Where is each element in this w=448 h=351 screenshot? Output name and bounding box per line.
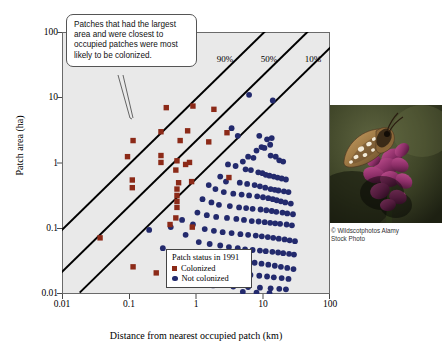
data-point-not-colonized <box>264 274 270 280</box>
data-point-not-colonized <box>248 167 254 173</box>
data-point-not-colonized <box>270 235 276 241</box>
data-point-not-colonized <box>292 238 298 244</box>
data-point-colonized <box>174 199 179 204</box>
y-tick-label: 0.01 <box>18 288 58 298</box>
data-point-not-colonized <box>286 251 292 257</box>
data-point-colonized <box>211 107 216 112</box>
data-point-colonized <box>206 139 211 144</box>
data-point-not-colonized <box>246 92 252 98</box>
legend-title: Patch status in 1991 <box>172 253 246 262</box>
data-point-not-colonized <box>243 205 249 211</box>
data-point-colonized <box>177 138 182 143</box>
callout-text: Patches that had the largest area and we… <box>74 20 178 60</box>
data-point-not-colonized <box>206 182 212 188</box>
data-point-not-colonized <box>259 233 265 239</box>
data-point-colonized <box>130 185 135 190</box>
data-point-not-colonized <box>283 286 289 292</box>
data-point-not-colonized <box>267 220 273 226</box>
data-point-not-colonized <box>260 194 266 200</box>
data-point-not-colonized <box>272 220 278 226</box>
data-point-not-colonized <box>263 207 269 213</box>
data-point-colonized <box>189 179 194 184</box>
data-point-not-colonized <box>289 222 295 228</box>
data-point-not-colonized <box>179 217 185 223</box>
x-tick-label: 1 <box>176 299 216 309</box>
data-point-not-colonized <box>269 249 275 255</box>
data-point-colonized <box>164 105 169 110</box>
y-tick-label: 0.1 <box>18 223 58 233</box>
data-point-not-colonized <box>250 206 256 212</box>
data-point-not-colonized <box>262 185 268 191</box>
data-point-not-colonized <box>233 216 239 222</box>
legend-item-colonized: Colonized <box>172 264 246 273</box>
data-point-not-colonized <box>229 230 235 236</box>
data-point-not-colonized <box>245 154 251 160</box>
x-tick-label: 10 <box>243 299 283 309</box>
data-point-colonized <box>224 130 229 135</box>
data-point-not-colonized <box>200 196 206 202</box>
data-point-colonized <box>154 270 159 275</box>
data-point-not-colonized <box>217 243 223 249</box>
data-point-not-colonized <box>254 148 260 154</box>
data-point-not-colonized <box>204 212 210 218</box>
photo-credit-line-1: © Wildscotphotos Alamy <box>331 227 443 235</box>
data-point-not-colonized <box>259 261 265 267</box>
data-point-colonized <box>130 264 135 269</box>
y-axis-title: Patch area (ha) <box>14 91 25 201</box>
data-point-not-colonized <box>254 193 260 199</box>
data-point-not-colonized <box>195 210 201 216</box>
data-point-not-colonized <box>235 133 241 139</box>
data-point-colonized <box>190 224 195 229</box>
data-point-not-colonized <box>290 211 296 217</box>
data-point-not-colonized <box>265 262 271 268</box>
data-point-not-colonized <box>263 248 269 254</box>
x-tick-label: 100 <box>310 299 350 309</box>
data-point-colonized <box>176 180 181 185</box>
data-point-not-colonized <box>275 250 281 256</box>
x-tick-label: 0.1 <box>109 299 149 309</box>
data-point-not-colonized <box>258 207 264 213</box>
data-point-not-colonized <box>207 241 213 247</box>
data-point-not-colonized <box>213 214 219 220</box>
data-point-not-colonized <box>224 215 230 221</box>
data-point-not-colonized <box>288 201 294 207</box>
data-point-not-colonized <box>280 250 286 256</box>
data-point-not-colonized <box>277 221 283 227</box>
data-point-not-colonized <box>245 232 251 238</box>
data-point-not-colonized <box>202 226 208 232</box>
data-point-colonized <box>125 154 130 159</box>
data-point-colonized <box>173 167 178 172</box>
data-point-not-colonized <box>270 98 276 104</box>
data-point-not-colonized <box>239 192 245 198</box>
data-point-not-colonized <box>217 174 223 180</box>
data-point-not-colonized <box>252 182 258 188</box>
data-point-not-colonized <box>241 217 247 223</box>
data-point-not-colonized <box>276 188 282 194</box>
data-point-not-colonized <box>238 231 244 237</box>
butterfly-photo <box>330 105 442 223</box>
data-point-not-colonized <box>271 274 277 280</box>
legend-item-not-colonized: Not colonized <box>172 274 246 283</box>
data-point-colonized <box>174 158 179 163</box>
photo-credit: © Wildscotphotos Alamy Stock Photo <box>331 227 443 242</box>
legend-swatch-square-icon <box>172 266 177 271</box>
data-point-colonized <box>174 193 179 198</box>
x-tick-label: 0.01 <box>42 299 82 309</box>
y-tick-label: 100 <box>18 27 58 37</box>
legend-label-colonized: Colonized <box>181 264 215 273</box>
photo-credit-line-2: Stock Photo <box>331 235 443 243</box>
data-point-not-colonized <box>183 232 189 238</box>
data-point-not-colonized <box>146 227 152 233</box>
legend-box: Patch status in 1991 Colonized Not colon… <box>166 249 252 288</box>
data-point-colonized <box>185 128 190 133</box>
data-point-not-colonized <box>265 234 271 240</box>
data-point-not-colonized <box>267 142 273 148</box>
data-point-not-colonized <box>276 286 282 292</box>
data-point-not-colonized <box>249 218 255 224</box>
data-point-not-colonized <box>272 263 278 269</box>
data-point-not-colonized <box>160 245 166 251</box>
data-point-not-colonized <box>243 166 249 172</box>
data-point-not-colonized <box>236 204 242 210</box>
data-point-not-colonized <box>286 189 292 195</box>
data-point-colonized <box>158 129 163 134</box>
